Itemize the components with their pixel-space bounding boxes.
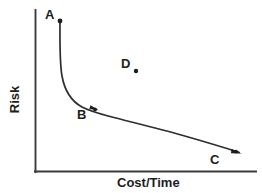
data-point-a-marker <box>58 19 63 24</box>
data-point-c-dot <box>234 150 238 154</box>
data-point-label-d: D <box>121 57 130 70</box>
data-point-d-marker <box>134 69 138 73</box>
data-point-b-dot <box>93 108 97 112</box>
tradeoff-curve-path <box>60 21 239 152</box>
data-point-label-b: B <box>77 108 86 121</box>
data-point-label-a: A <box>45 8 54 21</box>
risk-cost-time-tradeoff-chart: A B C D Cost/Time Risk <box>0 0 262 193</box>
data-point-label-c: C <box>210 153 219 166</box>
chart-canvas <box>0 0 262 193</box>
x-axis-title: Cost/Time <box>117 175 180 190</box>
y-axis-title: Risk <box>7 77 22 123</box>
